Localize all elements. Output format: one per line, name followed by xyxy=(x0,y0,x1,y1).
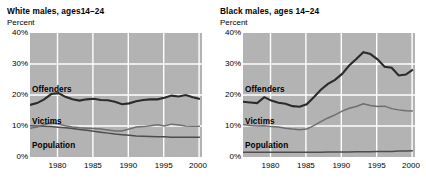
y-tick-right-0: 0% xyxy=(213,153,241,161)
series-label-population-left: Population xyxy=(32,141,75,150)
y-tick-right-10: 10% xyxy=(213,122,241,130)
x-tick-right-1985: 1985 xyxy=(297,161,315,170)
y-tick-left-30: 30% xyxy=(0,60,28,68)
series-label-offenders-right: Offenders xyxy=(245,85,285,94)
x-tick-right-1980: 1980 xyxy=(262,161,280,170)
y-tick-left-10: 10% xyxy=(0,122,28,130)
y-tick-right-40: 40% xyxy=(213,29,241,37)
figure-root: White males, ages14–24 Percent 40% 30% 2… xyxy=(0,0,426,185)
chart-panel-white-males: White males, ages14–24 Percent 40% 30% 2… xyxy=(0,0,213,185)
x-tick-right-2000: 2000 xyxy=(402,161,420,170)
y-tick-right-30: 30% xyxy=(213,60,241,68)
series-label-victims-left: Victims xyxy=(32,117,62,126)
y-axis-unit-label-left: Percent xyxy=(7,18,35,27)
series-label-offenders-left: Offenders xyxy=(32,85,72,94)
series-label-population-right: Population xyxy=(245,141,288,150)
y-tick-left-40: 40% xyxy=(0,29,28,37)
panel-title-black-males: Black males, ages 14–24 xyxy=(220,6,319,16)
chart-panel-black-males: Black males, ages 14–24 Percent 40% 30% … xyxy=(213,0,426,185)
y-axis-ticks-right: 40% 30% 20% 10% 0% xyxy=(213,33,241,157)
y-tick-left-20: 20% xyxy=(0,91,28,99)
x-tick-left-1985: 1985 xyxy=(84,161,102,170)
x-tick-left-2000: 2000 xyxy=(189,161,207,170)
x-tick-right-1995: 1995 xyxy=(368,161,386,170)
y-tick-right-20: 20% xyxy=(213,91,241,99)
x-tick-left-1990: 1990 xyxy=(119,161,137,170)
series-label-victims-right: Victims xyxy=(245,117,275,126)
plot-area-right: Offenders Victims Population xyxy=(243,33,415,157)
x-axis-ticks-left: 1980 1985 1990 1995 2000 xyxy=(30,161,202,173)
x-tick-left-1980: 1980 xyxy=(49,161,67,170)
y-axis-unit-label-right: Percent xyxy=(220,18,248,27)
plot-area-left: Offenders Victims Population xyxy=(30,33,202,157)
plot-svg-left xyxy=(30,33,202,157)
y-tick-left-0: 0% xyxy=(0,153,28,161)
x-axis-ticks-right: 1980 1985 1990 1995 2000 xyxy=(243,161,415,173)
panel-title-white-males: White males, ages14–24 xyxy=(7,6,104,16)
x-tick-right-1990: 1990 xyxy=(332,161,350,170)
x-tick-left-1995: 1995 xyxy=(155,161,173,170)
y-axis-ticks-left: 40% 30% 20% 10% 0% xyxy=(0,33,28,157)
plot-svg-right xyxy=(243,33,415,157)
